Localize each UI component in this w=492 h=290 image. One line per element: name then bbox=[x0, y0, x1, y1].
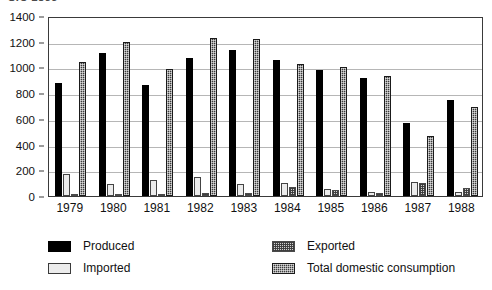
gridline bbox=[49, 172, 482, 173]
bar-exported-1987 bbox=[419, 183, 426, 196]
x-axis-tick-label: 1979 bbox=[56, 201, 83, 215]
bar-produced-1983 bbox=[229, 50, 236, 196]
legend-swatch-consumption-icon bbox=[272, 263, 295, 274]
bar-imported-1988 bbox=[455, 192, 462, 197]
y-axis-tick-mark bbox=[39, 119, 44, 120]
y-axis-tick-mark bbox=[39, 94, 44, 95]
y-axis-tick-label: 200 bbox=[16, 165, 35, 177]
legend-swatch-imported-icon bbox=[48, 263, 71, 274]
bar-imported-1982 bbox=[194, 177, 201, 196]
plot-area bbox=[48, 17, 483, 197]
y-axis-tick-label: 400 bbox=[16, 140, 35, 152]
bar-consumption-1979 bbox=[79, 62, 86, 196]
bar-imported-1983 bbox=[237, 184, 244, 196]
bar-imported-1987 bbox=[411, 182, 418, 196]
bar-produced-1986 bbox=[360, 78, 367, 196]
bar-exported-1986 bbox=[376, 193, 383, 196]
bar-exported-1983 bbox=[245, 193, 252, 196]
bar-produced-1982 bbox=[186, 58, 193, 196]
gridline bbox=[49, 121, 482, 122]
bar-produced-1985 bbox=[316, 70, 323, 196]
y-axis-tick-label: 0 bbox=[29, 191, 35, 203]
bar-exported-1980 bbox=[115, 194, 122, 196]
bar-consumption-1981 bbox=[166, 69, 173, 196]
legend-entry-imported: Imported bbox=[48, 260, 130, 276]
bar-produced-1980 bbox=[99, 53, 106, 196]
bar-produced-1979 bbox=[55, 83, 62, 196]
chart-legend: Produced Imported Exported Total domesti… bbox=[0, 236, 492, 284]
bar-consumption-1983 bbox=[253, 39, 260, 196]
bar-produced-1987 bbox=[403, 123, 410, 196]
x-axis-tick-label: 1984 bbox=[274, 201, 301, 215]
x-axis-tick-label: 1983 bbox=[230, 201, 257, 215]
legend-label-exported: Exported bbox=[307, 239, 355, 253]
y-axis-tick-mark bbox=[39, 145, 44, 146]
bar-imported-1986 bbox=[368, 192, 375, 197]
legend-entry-exported: Exported bbox=[272, 238, 355, 254]
bar-exported-1979 bbox=[71, 194, 78, 196]
x-axis: 1979198019811982198319841985198619871988 bbox=[48, 199, 483, 219]
gridline bbox=[49, 44, 482, 45]
bar-imported-1985 bbox=[324, 189, 331, 196]
x-axis-tick-label: 1988 bbox=[448, 201, 475, 215]
bar-imported-1979 bbox=[63, 174, 70, 196]
y-axis-tick-label: 800 bbox=[16, 88, 35, 100]
bar-consumption-1988 bbox=[471, 107, 478, 196]
bar-exported-1988 bbox=[463, 188, 470, 196]
x-axis-tick-label: 1982 bbox=[187, 201, 214, 215]
legend-entry-consumption: Total domestic consumption bbox=[272, 260, 455, 276]
bar-imported-1984 bbox=[281, 183, 288, 197]
bar-consumption-1987 bbox=[427, 136, 434, 196]
y-axis-tick-label: 600 bbox=[16, 114, 35, 126]
bar-consumption-1985 bbox=[340, 67, 347, 196]
bar-consumption-1980 bbox=[123, 42, 130, 196]
gridline bbox=[49, 95, 482, 96]
legend-label-consumption: Total domestic consumption bbox=[307, 261, 455, 275]
x-axis-tick-label: 1987 bbox=[404, 201, 431, 215]
legend-swatch-produced-icon bbox=[48, 241, 71, 252]
gridline bbox=[49, 69, 482, 70]
y-axis-tick-mark bbox=[39, 17, 44, 18]
bar-consumption-1982 bbox=[210, 38, 217, 196]
bar-produced-1988 bbox=[447, 100, 454, 196]
y-axis-tick-label: 1400 bbox=[9, 11, 35, 23]
legend-entry-produced: Produced bbox=[48, 238, 134, 254]
bar-exported-1982 bbox=[202, 193, 209, 196]
gridline bbox=[49, 147, 482, 148]
bar-consumption-1984 bbox=[297, 64, 304, 196]
y-axis-tick-mark bbox=[39, 42, 44, 43]
bar-exported-1981 bbox=[158, 194, 165, 196]
bar-imported-1981 bbox=[150, 180, 157, 196]
x-axis-tick-label: 1985 bbox=[317, 201, 344, 215]
legend-label-imported: Imported bbox=[83, 261, 130, 275]
bar-exported-1984 bbox=[289, 187, 296, 196]
y-axis-tick-mark bbox=[39, 197, 44, 198]
bar-produced-1984 bbox=[273, 60, 280, 196]
y-axis-tick-label: 1200 bbox=[9, 37, 35, 49]
x-axis-tick-label: 1981 bbox=[143, 201, 170, 215]
bar-chart: 0200400600800100012001400 19791980198119… bbox=[0, 0, 492, 290]
x-axis-tick-label: 1986 bbox=[361, 201, 388, 215]
bar-exported-1985 bbox=[332, 190, 339, 196]
y-axis-tick-mark bbox=[39, 68, 44, 69]
y-axis-tick-mark bbox=[39, 171, 44, 172]
legend-swatch-exported-icon bbox=[272, 241, 295, 252]
bar-imported-1980 bbox=[107, 184, 114, 196]
bar-produced-1981 bbox=[142, 85, 149, 196]
bar-consumption-1986 bbox=[384, 76, 391, 196]
x-axis-tick-label: 1980 bbox=[100, 201, 127, 215]
legend-label-produced: Produced bbox=[83, 239, 134, 253]
y-axis-tick-label: 1000 bbox=[9, 62, 35, 74]
